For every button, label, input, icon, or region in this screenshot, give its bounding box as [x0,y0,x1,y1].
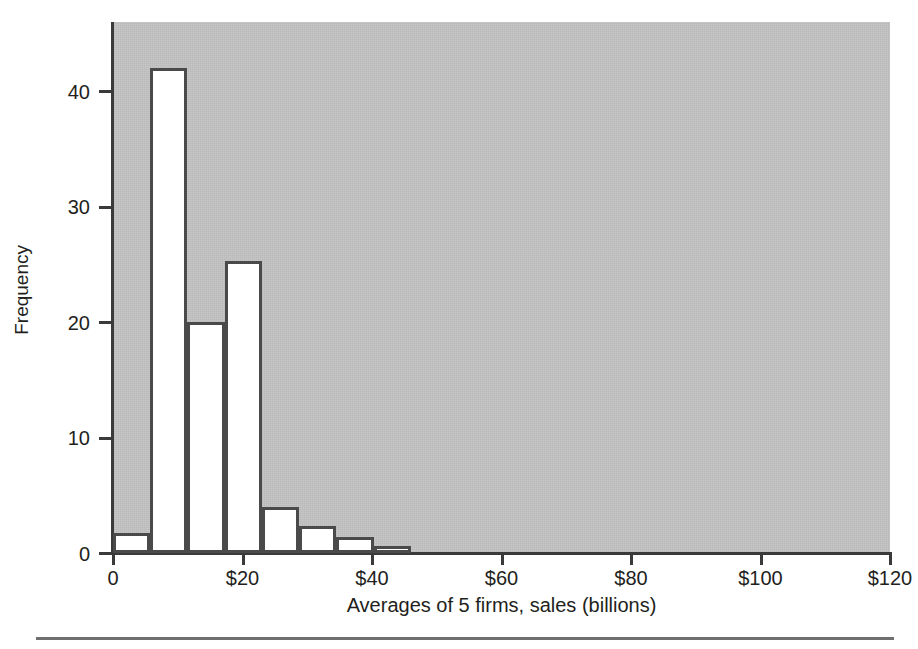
y-axis-line [111,22,114,555]
histogram-bar [336,537,373,553]
histogram-bar [113,533,150,553]
y-axis-tick: 10 [99,437,112,440]
y-axis-tick-label: 30 [68,197,90,217]
y-axis-title: Frequency [12,245,31,335]
x-axis-tick-label: $60 [485,568,518,588]
y-axis-tick-label: 40 [68,81,90,101]
y-axis-tick: 20 [99,321,112,324]
x-axis-tick [112,553,115,565]
histogram-figure: 010203040 0$20$40$60$80$100$120 Frequenc… [0,0,918,649]
y-axis-tick-label: 20 [68,312,90,332]
bottom-rule-divider [36,637,894,640]
histogram-bar [374,546,411,553]
histogram-bar [187,322,224,553]
y-axis-tick: 30 [99,206,112,209]
y-axis-tick-label: 10 [68,428,90,448]
x-axis-tick [242,553,245,565]
histogram-bar [299,526,336,553]
x-axis-tick-label: 0 [107,568,118,588]
x-axis-tick-label: $80 [614,568,647,588]
x-axis-tick [371,553,374,565]
x-axis-tick-label: $20 [226,568,259,588]
x-axis-tick-label: $100 [738,568,783,588]
x-axis-tick [760,553,763,565]
x-axis-tick [501,553,504,565]
x-axis-tick-label: $120 [868,568,913,588]
x-axis-tick [889,553,892,565]
histogram-bar [150,68,187,553]
x-axis-title: Averages of 5 firms, sales (billions) [113,595,890,615]
x-axis-tick-label: $40 [355,568,388,588]
histogram-bar [225,261,262,553]
y-axis-tick-label: 0 [79,543,90,563]
y-axis-tick: 40 [99,90,112,93]
histogram-bar [262,507,299,553]
y-axis-tick: 0 [99,552,112,555]
x-axis-tick [630,553,633,565]
